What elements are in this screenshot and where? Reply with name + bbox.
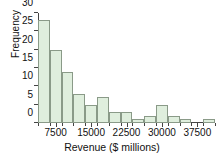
histogram-bar [144, 116, 156, 123]
x-tick-minor [203, 123, 204, 126]
y-tick-label: 15 [22, 53, 33, 63]
histogram-figure: Frequency 051015202530 75001500022500300… [0, 0, 224, 161]
y-tick-label: 10 [22, 71, 33, 81]
x-tick-minor [215, 123, 216, 126]
x-tick-label: 7500 [45, 128, 67, 138]
y-tick-label: 0 [27, 108, 33, 118]
x-tick-label: 30000 [148, 128, 176, 138]
x-tick-label: 15000 [77, 128, 105, 138]
histogram-bar [109, 112, 121, 123]
y-tick-label: 5 [27, 90, 33, 100]
x-tick-minor [62, 123, 63, 126]
x-tick-minor [168, 123, 169, 126]
y-tick-label: 30 [22, 0, 33, 8]
x-tick-minor [73, 123, 74, 126]
histogram-bar [73, 94, 85, 123]
histogram-bar [121, 112, 133, 123]
plot-area: 051015202530 750015000225003000037500 [38, 13, 215, 123]
x-tick-minor [121, 123, 122, 126]
histogram-bar [203, 119, 215, 123]
y-tick-label: 20 [22, 35, 33, 45]
x-tick-minor [156, 123, 157, 126]
histogram-bar [156, 105, 168, 123]
x-tick-minor [50, 123, 51, 126]
x-tick-label: 37500 [183, 128, 211, 138]
histogram-bar [62, 72, 74, 123]
x-tick-minor [144, 123, 145, 126]
histogram-bar [97, 97, 109, 123]
x-tick-minor [180, 123, 181, 126]
bar-series [38, 13, 215, 123]
x-tick-minor [109, 123, 110, 126]
x-tick-minor [38, 123, 39, 126]
x-tick-minor [97, 123, 98, 126]
x-tick-label: 22500 [113, 128, 141, 138]
histogram-bar [168, 116, 180, 123]
histogram-bar [180, 119, 192, 123]
histogram-bar [132, 119, 144, 123]
y-tick-label: 25 [22, 16, 33, 26]
x-tick-minor [132, 123, 133, 126]
x-axis-title: Revenue ($ millions) [0, 141, 224, 153]
histogram-bar [50, 50, 62, 123]
x-tick-minor [85, 123, 86, 126]
histogram-bar [38, 20, 50, 123]
histogram-bar [85, 105, 97, 123]
x-tick-minor [191, 123, 192, 126]
